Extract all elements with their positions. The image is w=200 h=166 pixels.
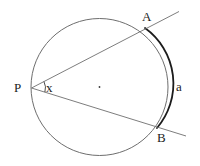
geometry-figure: P x A B a	[0, 0, 200, 166]
geometry-canvas	[0, 0, 200, 166]
label-arc-a: a	[176, 80, 182, 93]
label-angle-x: x	[46, 81, 53, 94]
label-point-B: B	[157, 131, 166, 144]
label-point-P: P	[14, 81, 21, 94]
highlighted-arc-a	[145, 28, 173, 128]
circle-center-dot	[99, 86, 101, 88]
label-point-A: A	[142, 10, 151, 23]
